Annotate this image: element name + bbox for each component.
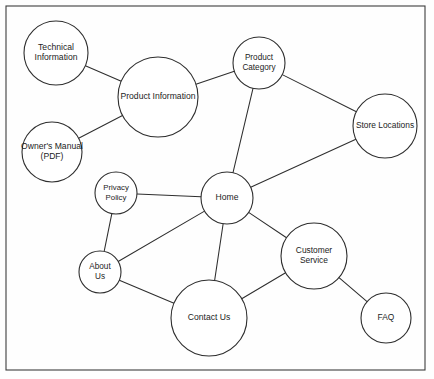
edge-technical-information-product-information: [85, 66, 121, 81]
node-store-locations[interactable]: Store Locations: [353, 94, 417, 158]
node-faq[interactable]: FAQ: [361, 293, 411, 343]
edge-product-category-home: [233, 88, 253, 172]
site-map-diagram: TechnicalInformationProduct InformationO…: [0, 0, 434, 379]
node-circle-product-information[interactable]: [118, 57, 198, 137]
node-circle-faq[interactable]: [361, 293, 411, 343]
diagram-canvas: TechnicalInformationProduct InformationO…: [0, 0, 434, 379]
node-circle-home[interactable]: [201, 172, 253, 224]
node-circle-contact-us[interactable]: [171, 280, 247, 356]
edge-privacy-policy-home: [137, 194, 201, 197]
node-circle-about-us[interactable]: [79, 251, 121, 293]
node-about-us[interactable]: AboutUs: [79, 251, 121, 293]
node-contact-us[interactable]: Contact Us: [171, 280, 247, 356]
edge-customer-service-faq: [339, 278, 367, 302]
node-home[interactable]: Home: [201, 172, 253, 224]
node-privacy-policy[interactable]: PrivacyPolicy: [95, 172, 137, 214]
node-customer-service[interactable]: CustomerService: [281, 223, 347, 289]
edge-store-locations-home: [251, 139, 356, 187]
node-owners-manual[interactable]: Owner's Manual(PDF): [21, 122, 83, 182]
edge-owners-manual-product-information: [79, 115, 123, 138]
edge-about-us-home: [118, 211, 204, 261]
node-technical-information[interactable]: TechnicalInformation: [24, 21, 88, 85]
node-product-information[interactable]: Product Information: [118, 57, 198, 137]
node-circle-customer-service[interactable]: [281, 223, 347, 289]
node-circle-product-category[interactable]: [233, 37, 285, 89]
edge-product-category-store-locations: [282, 75, 356, 112]
edge-product-information-product-category: [196, 71, 234, 84]
node-circle-privacy-policy[interactable]: [95, 172, 137, 214]
edge-about-us-contact-us: [119, 280, 174, 303]
node-circle-owners-manual[interactable]: [22, 122, 82, 182]
edge-home-customer-service: [249, 212, 287, 237]
edge-privacy-policy-about-us: [104, 214, 112, 252]
node-product-category[interactable]: ProductCategory: [233, 37, 285, 89]
node-circle-technical-information[interactable]: [24, 21, 88, 85]
edge-customer-service-contact-us: [242, 273, 286, 299]
node-circle-store-locations[interactable]: [353, 94, 417, 158]
nodes-layer: TechnicalInformationProduct InformationO…: [21, 21, 417, 356]
edge-home-contact-us: [215, 224, 224, 281]
